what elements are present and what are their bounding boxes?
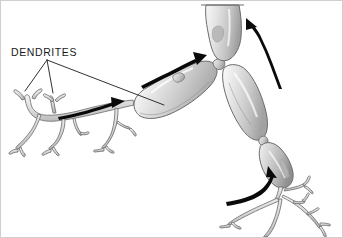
segment-right-upper (223, 65, 268, 141)
neuron-diagram: DENDRITES (0, 0, 343, 238)
arrow-lower-right (226, 166, 277, 206)
segment-right-lower (259, 143, 293, 189)
segment-top (201, 5, 244, 61)
leader-fork-left (25, 60, 47, 91)
label-dendrites: DENDRITES (11, 46, 77, 58)
leader-fork-right (47, 60, 53, 93)
leader-soma (47, 60, 164, 105)
diagram-canvas: DENDRITES (1, 1, 343, 238)
